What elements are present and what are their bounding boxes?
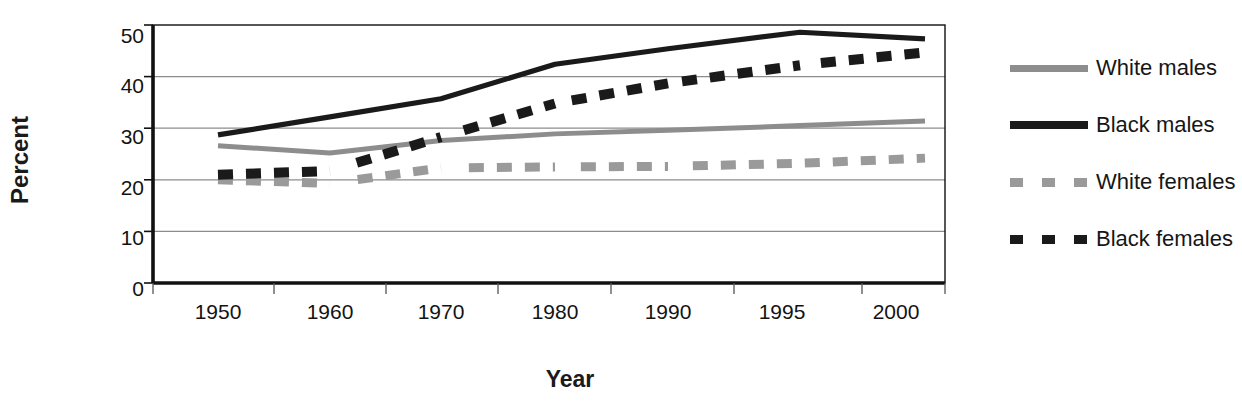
solid-gray-line-key (1010, 61, 1088, 75)
dash-mark (917, 154, 926, 163)
legend-label: White males (1096, 57, 1217, 79)
series-line-black-males (218, 32, 925, 135)
series-line-white-females (218, 154, 925, 188)
dash-mark (497, 163, 512, 172)
dash-mark (218, 169, 233, 179)
dash-mark (246, 168, 261, 178)
legend-item-black-females: Black females (1010, 221, 1242, 256)
legend-label: Black males (1096, 114, 1215, 136)
dash-mark (598, 88, 615, 100)
dash-mark (385, 169, 401, 180)
dash-mark (571, 93, 588, 105)
dash-mark (749, 160, 764, 169)
dash-mark (413, 165, 429, 176)
dash-mark (274, 167, 289, 177)
dash-mark (681, 74, 697, 86)
dash-mark (765, 63, 781, 75)
dashed-black-line-key (1010, 232, 1088, 246)
dash-mark (440, 163, 441, 172)
legend-item-white-males: White males (1010, 50, 1242, 85)
dash-mark (820, 57, 836, 68)
dash-mark (889, 155, 904, 165)
series-line-white-males (218, 121, 925, 153)
dash-mark (777, 159, 792, 168)
dash-mark (709, 71, 725, 83)
dash-mark (626, 83, 643, 95)
dash-mark (904, 48, 920, 59)
dash-mark (553, 162, 555, 171)
dashed-gray-line-key (1010, 175, 1088, 189)
dash-mark (489, 113, 506, 127)
dash-mark (861, 156, 876, 166)
dash-mark (654, 78, 669, 90)
dash-mark (469, 163, 484, 172)
dash-mark (637, 162, 652, 171)
legend-item-black-males: Black males (1010, 107, 1242, 142)
dash-mark (792, 60, 800, 71)
dash-mark (805, 158, 820, 168)
chart-figure: Percent 50 40 30 20 10 0 1950 1960 1970 … (0, 0, 1242, 412)
dash-mark (302, 166, 317, 176)
dash-mark (737, 67, 753, 79)
dash-mark (355, 154, 372, 168)
dash-mark (581, 162, 596, 171)
dash-mark (525, 163, 540, 172)
dash-mark (848, 54, 864, 65)
dash-mark (833, 157, 848, 167)
dash-mark (693, 161, 708, 170)
legend-label: White females (1096, 171, 1235, 193)
dash-mark (274, 177, 289, 186)
dash-mark (302, 178, 317, 187)
chart-legend: White males Black males White females (1010, 50, 1242, 278)
dash-mark (876, 51, 892, 62)
dash-mark (357, 173, 373, 184)
dash-mark (462, 121, 479, 135)
solid-black-line-key (1010, 118, 1088, 132)
legend-item-white-females: White females (1010, 164, 1242, 199)
dash-mark (409, 137, 426, 151)
legend-label: Black females (1096, 228, 1233, 250)
dash-mark (543, 99, 556, 112)
dash-mark (609, 162, 624, 171)
dash-mark (665, 162, 668, 171)
dash-mark (721, 160, 736, 169)
dash-mark (516, 105, 533, 119)
